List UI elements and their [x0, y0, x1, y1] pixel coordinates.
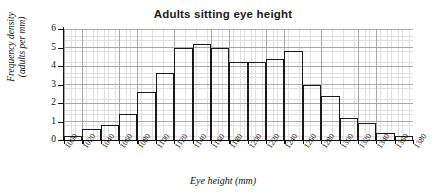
y-axis-title: Frequency density (adults per mm) [6, 0, 28, 106]
y-axis-tick-label: 5 [44, 42, 56, 52]
bar-series [64, 29, 413, 140]
y-axis-tick [58, 66, 64, 67]
bar [211, 48, 229, 141]
y-axis-tick [58, 48, 64, 49]
y-axis-tick [58, 85, 64, 86]
y-axis-tick [58, 103, 64, 104]
x-axis-title: Eye height (mm) [0, 175, 446, 186]
y-axis-title-line2: (adults per mm) [17, 17, 27, 78]
y-axis-title-line1: Frequency density [6, 12, 16, 82]
y-axis-tick [58, 29, 64, 30]
chart-title: Adults sitting eye height [0, 8, 446, 20]
bar [284, 51, 302, 140]
x-axis-tick-label: 1380 [412, 132, 429, 150]
y-axis-tick [58, 122, 64, 123]
bar [156, 73, 174, 140]
bar [229, 62, 247, 140]
bar [266, 59, 284, 140]
y-axis-tick-label: 6 [44, 23, 56, 33]
y-axis-tick-label: 3 [44, 79, 56, 89]
bar [174, 48, 192, 141]
bar [248, 62, 266, 140]
y-axis-tick-label: 1 [44, 116, 56, 126]
y-axis-tick-label: 0 [44, 134, 56, 144]
histogram-figure: Adults sitting eye height 0123456 100010… [0, 0, 446, 193]
y-axis-tick-label: 4 [44, 60, 56, 70]
y-axis-tick-label: 2 [44, 97, 56, 107]
bar [193, 44, 211, 140]
